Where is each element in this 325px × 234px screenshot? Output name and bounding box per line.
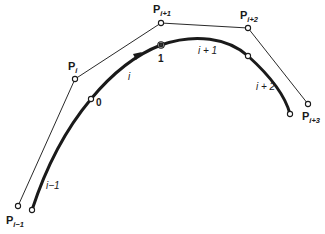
label-p-i: Pi (68, 60, 78, 75)
control-point-p-i-minus-1 (15, 203, 20, 208)
parameter-label-1: 1 (158, 53, 164, 64)
spline-diagram: Pi−1 Pi Pi+1 Pi+2 Pi+3 i−1 i i + 1 i + 2… (0, 0, 325, 234)
control-polygon (18, 23, 308, 206)
label-p-i-plus-2: Pi+2 (240, 9, 259, 24)
label-p-i-plus-3: Pi+3 (302, 110, 321, 125)
segment-label-i: i (128, 71, 131, 82)
control-point-p-i (72, 76, 77, 81)
label-p-i-minus-1: Pi−1 (6, 214, 24, 229)
curve-end-point (287, 111, 292, 116)
parameter-label-0: 0 (96, 97, 102, 108)
control-point-p-i-plus-1 (158, 20, 163, 25)
knot-point-0 (88, 96, 93, 101)
knot-point-2 (245, 53, 250, 58)
control-point-p-i-plus-2 (245, 25, 250, 30)
segment-label-i-plus-2: i + 2 (256, 81, 276, 92)
segment-label-i-minus-1: i−1 (46, 180, 60, 191)
label-p-i-plus-1: Pi+1 (153, 3, 171, 18)
control-point-p-i-plus-3 (305, 101, 310, 106)
knot-point-1 (159, 43, 163, 47)
curve-start-point (29, 207, 34, 212)
segment-label-i-plus-1: i + 1 (198, 45, 217, 56)
